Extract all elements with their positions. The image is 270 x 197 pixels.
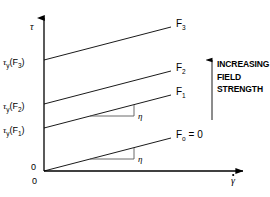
series-line-f1: [44, 95, 171, 128]
ytick-label-tau-y-f3: τy(F3): [3, 58, 25, 67]
rheology-chart-figure: τ γ 0 0 τy(F3) τy(F2) τy(F1) F3 F2 F1 Fo…: [0, 0, 270, 197]
gamma-dot-overdot: [232, 174, 234, 176]
series-label-f2: F2: [176, 63, 186, 73]
x-axis-symbol: γ: [231, 176, 235, 186]
note-line-3: STRENGTH: [217, 83, 269, 96]
series-line-f3: [44, 27, 171, 60]
increasing-field-strength-note: INCREASING FIELD STRENGTH: [217, 58, 269, 96]
chart-canvas: [0, 0, 270, 197]
series-label-f1: F1: [176, 87, 186, 97]
eta-label-lower: η: [138, 155, 142, 164]
note-line-2: FIELD: [217, 71, 269, 84]
y-origin-zero-label: 0: [31, 163, 36, 172]
series-label-f0: Fo = 0: [176, 130, 203, 140]
x-origin-zero-label: 0: [32, 177, 37, 186]
ytick-label-tau-y-f1: τy(F1): [3, 126, 25, 135]
ytick-label-tau-y-f2: τy(F2): [3, 102, 25, 111]
y-axis-symbol: τ: [30, 22, 34, 32]
eta-label-upper: η: [138, 112, 142, 121]
series-line-f0: [44, 138, 171, 171]
series-line-f2: [44, 71, 171, 104]
note-line-1: INCREASING: [217, 58, 269, 71]
series-label-f3: F3: [176, 19, 186, 29]
